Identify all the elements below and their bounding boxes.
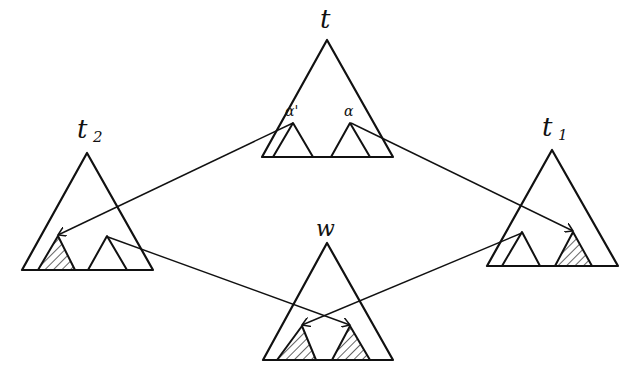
tree-t2-triangle xyxy=(22,153,153,270)
tree-t1-triangle xyxy=(487,150,618,266)
tree-t1-subscript: 1 xyxy=(558,126,568,144)
tree-t2-label: t xyxy=(77,114,88,144)
subtree-alpha xyxy=(331,123,370,157)
tree-diagram: t α' α t 2 t 1 w xyxy=(0,0,634,377)
tree-w: w xyxy=(263,216,393,360)
tree-w-label: w xyxy=(316,216,335,241)
arrow-alpha-to-t1 xyxy=(351,123,573,231)
subtree-plain xyxy=(502,232,540,266)
tree-t2-subscript: 2 xyxy=(92,128,103,146)
tree-w-triangle xyxy=(263,243,393,360)
subtree-hatched xyxy=(555,232,592,266)
arrow-t1-to-w xyxy=(302,233,522,325)
subtree-hatched-right xyxy=(332,326,370,360)
tree-t1-label: t xyxy=(542,112,553,142)
subtree-hatched xyxy=(38,236,75,270)
subtree-hatched-left xyxy=(277,326,316,360)
alpha-label: α xyxy=(344,103,354,119)
arrow-t2-to-w xyxy=(108,237,350,325)
tree-t-triangle xyxy=(262,40,393,157)
tree-t-label: t xyxy=(320,4,331,34)
tree-t1: t 1 xyxy=(487,112,618,266)
alpha-prime-label: α' xyxy=(285,103,298,119)
